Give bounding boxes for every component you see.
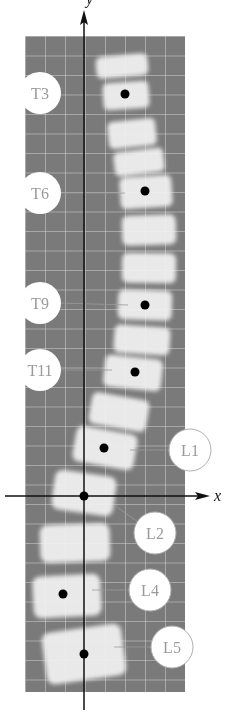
dot-t9	[141, 301, 150, 310]
y-axis-label: y	[84, 0, 94, 8]
label-t3: T3	[19, 72, 61, 114]
svg-text:T3: T3	[31, 85, 49, 102]
label-t6: T6	[19, 172, 61, 214]
vertebra	[122, 253, 177, 284]
dot-origin	[80, 492, 89, 501]
svg-text:T6: T6	[31, 185, 49, 202]
label-l1: L1	[169, 429, 211, 471]
vertebra-l3	[39, 523, 110, 563]
dot-t3	[121, 90, 130, 99]
dot-t11	[131, 368, 140, 377]
vertebra	[113, 324, 171, 356]
svg-text:T9: T9	[31, 295, 49, 312]
dot-t6	[141, 187, 150, 196]
label-t9: T9	[19, 282, 61, 324]
svg-text:L4: L4	[141, 582, 159, 599]
label-l2: L2	[134, 512, 176, 554]
dot-l5	[80, 650, 89, 659]
svg-text:L2: L2	[146, 525, 164, 542]
vertebra	[121, 214, 176, 246]
x-axis-label: x	[213, 487, 221, 504]
label-l4: L4	[129, 569, 171, 611]
vertebra	[107, 118, 158, 150]
label-t11: T11	[19, 349, 61, 391]
spine-diagram: x y T3 T6 T9 T11 L1	[0, 0, 228, 724]
svg-text:L5: L5	[163, 639, 181, 656]
dot-l1	[100, 444, 109, 453]
svg-text:L1: L1	[181, 442, 199, 459]
vertebra	[95, 53, 149, 79]
label-l5: L5	[151, 626, 193, 668]
dot-l4	[59, 590, 68, 599]
svg-text:T11: T11	[27, 362, 52, 379]
